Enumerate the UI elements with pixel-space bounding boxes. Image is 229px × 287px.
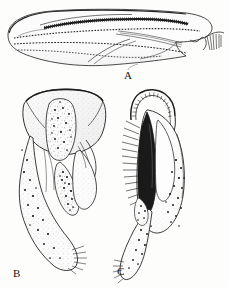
wing-outline (8, 9, 212, 65)
figure-a-wing (8, 9, 224, 70)
figure-label-b: B (13, 268, 21, 279)
figure-c-genitalia-lateral (113, 90, 185, 283)
plate-artwork (0, 0, 229, 287)
illustration-plate: A B C (0, 0, 229, 287)
figure-label-a: A (124, 70, 132, 81)
fig-b-right-lobe-shade (73, 150, 97, 209)
figure-b-genitalia-ventral (19, 89, 105, 274)
figure-label-c: C (117, 266, 125, 277)
